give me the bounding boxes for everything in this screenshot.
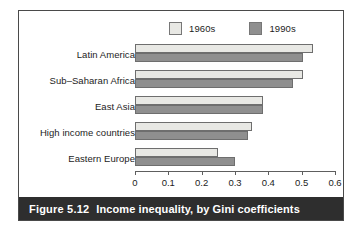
legend-entry-1960s: 1960s bbox=[169, 22, 215, 35]
figure-caption-number: Figure 5.12 bbox=[29, 203, 89, 215]
x-axis-label-5: 0.5 bbox=[287, 177, 317, 188]
legend-swatch-1990s-icon bbox=[249, 22, 262, 35]
bar-1960s-eastern-europe bbox=[135, 148, 218, 157]
chart-row-latin-america: Latin America bbox=[19, 43, 343, 65]
chart-row-eastern-europe: Eastern Europe bbox=[19, 147, 343, 169]
bar-1990s-latin-america bbox=[135, 53, 303, 62]
chart-plot-area: 1960s 1990s Latin America Sub–Saharan Af bbox=[19, 11, 343, 191]
bar-pair-latin-america bbox=[135, 43, 335, 65]
bar-pair-east-asia bbox=[135, 95, 335, 117]
figure-frame: 1960s 1990s Latin America Sub–Saharan Af bbox=[18, 10, 344, 221]
x-axis-tick-2 bbox=[202, 171, 203, 175]
bar-1960s-latin-america bbox=[135, 44, 313, 53]
x-axis-tick-1 bbox=[168, 171, 169, 175]
x-axis-tick-6 bbox=[335, 171, 336, 175]
legend-entry-1990s: 1990s bbox=[249, 22, 295, 35]
bar-1960s-high-income-countries bbox=[135, 122, 252, 131]
x-axis-tick-4 bbox=[268, 171, 269, 175]
x-axis-line: 0 0.1 0.2 0.3 0.4 0.5 0.6 bbox=[135, 171, 335, 172]
bar-1990s-sub-saharan-africa bbox=[135, 79, 293, 88]
x-axis-label-3: 0.3 bbox=[220, 177, 250, 188]
x-axis-label-6: 0.6 bbox=[320, 177, 350, 188]
x-axis-label-4: 0.4 bbox=[253, 177, 283, 188]
x-axis-tick-3 bbox=[235, 171, 236, 175]
bar-1960s-east-asia bbox=[135, 96, 263, 105]
x-axis-tick-5 bbox=[302, 171, 303, 175]
chart-row-sub-saharan-africa: Sub–Saharan Africa bbox=[19, 69, 343, 91]
category-label-sub-saharan-africa: Sub–Saharan Africa bbox=[0, 75, 135, 86]
bar-pair-eastern-europe bbox=[135, 147, 335, 169]
bar-1960s-sub-saharan-africa bbox=[135, 70, 303, 79]
legend-label-1990s: 1990s bbox=[269, 23, 295, 34]
bar-1990s-eastern-europe bbox=[135, 157, 235, 166]
legend-swatch-1960s-icon bbox=[169, 22, 182, 35]
x-axis-label-1: 0.1 bbox=[153, 177, 183, 188]
legend-label-1960s: 1960s bbox=[189, 23, 215, 34]
bar-pair-high-income-countries bbox=[135, 121, 335, 143]
chart-bars-group: Latin America Sub–Saharan Africa East As… bbox=[19, 43, 343, 171]
x-axis-tick-0 bbox=[135, 171, 136, 175]
chart-row-high-income-countries: High income countries bbox=[19, 121, 343, 143]
chart-legend: 1960s 1990s bbox=[169, 20, 296, 36]
bar-1990s-high-income-countries bbox=[135, 131, 248, 140]
bar-pair-sub-saharan-africa bbox=[135, 69, 335, 91]
x-axis-label-0: 0 bbox=[120, 177, 150, 188]
category-label-eastern-europe: Eastern Europe bbox=[0, 153, 135, 164]
chart-row-east-asia: East Asia bbox=[19, 95, 343, 117]
figure-caption-bar: Figure 5.12 Income inequality, by Gini c… bbox=[19, 197, 343, 220]
x-axis-label-2: 0.2 bbox=[187, 177, 217, 188]
figure-caption-text: Income inequality, by Gini coefficients bbox=[96, 203, 300, 215]
category-label-high-income-countries: High income countries bbox=[0, 127, 135, 138]
category-label-east-asia: East Asia bbox=[0, 101, 135, 112]
bar-1990s-east-asia bbox=[135, 105, 263, 114]
figure-container: 1960s 1990s Latin America Sub–Saharan Af bbox=[0, 0, 356, 233]
category-label-latin-america: Latin America bbox=[0, 49, 135, 60]
